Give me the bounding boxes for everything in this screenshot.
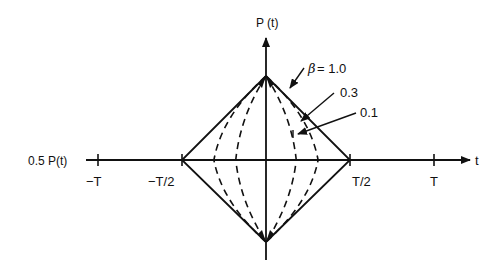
- eye-curve-beta-1-left: [182, 76, 266, 242]
- eye-pattern-diagram: P (t) t 0.5 P(t) −T −T/2 T/2 T β = 1.0 0…: [0, 0, 498, 274]
- beta-0.1-label: 0.1: [360, 105, 378, 120]
- beta-0.3-pointer-arrow: [301, 93, 334, 121]
- left-axis-label: 0.5 P(t): [28, 154, 67, 168]
- tick-label-t: T: [430, 174, 438, 189]
- beta-symbol: β: [307, 61, 316, 76]
- eye-curve-beta-1-right: [266, 76, 350, 242]
- tick-label-half-t: T/2: [352, 174, 371, 189]
- beta-1-label: = 1.0: [317, 61, 346, 76]
- tick-label-neg-half-t: −T/2: [148, 174, 174, 189]
- horizontal-axis-label: t: [475, 153, 479, 168]
- beta-1-pointer-arrow: [290, 68, 304, 88]
- beta-0.3-label: 0.3: [340, 85, 358, 100]
- tick-label-neg-t: −T: [86, 174, 102, 189]
- vertical-axis-label: P (t): [256, 16, 278, 30]
